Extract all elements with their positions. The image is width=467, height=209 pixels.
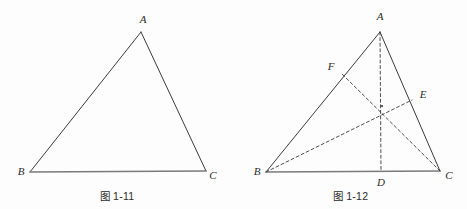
vertex-label-C: C	[209, 169, 217, 181]
caption-number: 1-11	[113, 190, 134, 202]
side-AB	[30, 32, 141, 172]
side-BC	[266, 171, 440, 172]
median-BE	[266, 100, 412, 172]
side-AC	[141, 32, 206, 171]
vertex-label-D: D	[376, 176, 385, 188]
vertex-label-E: E	[419, 88, 427, 100]
caption-prefix: 图	[333, 190, 343, 202]
side-AC	[380, 32, 440, 171]
figure-1-12: A B C D E F	[254, 10, 454, 188]
centroid-point	[381, 105, 383, 107]
caption-prefix: 图	[100, 190, 110, 202]
vertex-label-B: B	[254, 165, 261, 177]
vertex-label-A: A	[376, 10, 384, 22]
figures-canvas: A B C A B C D E F	[0, 0, 467, 209]
caption-figure-1-11: 图 1-11	[0, 188, 234, 203]
side-BC	[30, 171, 206, 172]
vertex-label-C: C	[445, 169, 453, 181]
side-AB	[266, 32, 380, 172]
vertex-label-F: F	[327, 60, 335, 72]
figure-board: A B C A B C D E F 图 1-11 图 1-12	[0, 0, 467, 209]
vertex-label-A: A	[139, 13, 147, 25]
figure-1-11: A B C	[18, 13, 218, 181]
caption-figure-1-12: 图 1-12	[234, 188, 467, 203]
caption-number: 1-12	[346, 190, 368, 202]
median-AD	[380, 32, 381, 171]
vertex-label-B: B	[18, 165, 25, 177]
